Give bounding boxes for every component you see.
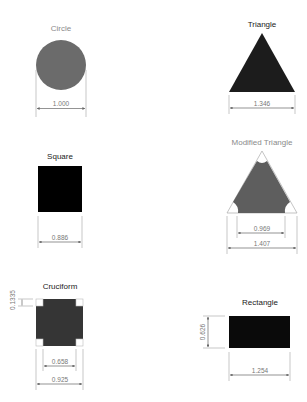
- cruciform-notch-bottom-left: [36, 339, 43, 346]
- rectangle-height-label: 0.626: [199, 323, 206, 340]
- rectangle-width-label: 1.254: [252, 367, 269, 374]
- cruciform-figure: Cruciform 0.1335 0.658 0.925: [9, 282, 83, 390]
- circle-figure: Circle 1.000: [36, 24, 86, 117]
- triangle-figure: Triangle 1.346: [229, 20, 295, 114]
- cruciform-title: Cruciform: [43, 282, 78, 291]
- modified-triangle-inner-label: 0.969: [254, 225, 271, 232]
- cruciform-inner-label: 0.658: [52, 358, 69, 365]
- square-title: Square: [47, 152, 73, 161]
- cruciform-notch-top-right: [76, 299, 83, 306]
- cruciform-outer-label: 0.925: [52, 376, 69, 383]
- modified-triangle-outer-label: 1.407: [254, 240, 271, 247]
- modified-triangle-title: Modified Triangle: [232, 138, 293, 147]
- circle-diameter-label: 1.000: [53, 100, 70, 107]
- shapes-diagram: Circle 1.000 Triangle 1.346 Square 0.886…: [0, 0, 307, 402]
- square-side-label: 0.886: [52, 234, 69, 241]
- cruciform-notch-label: 0.1335: [9, 290, 16, 310]
- rectangle-shape: [229, 316, 290, 348]
- square-shape: [38, 166, 82, 212]
- circle-title: Circle: [51, 24, 72, 33]
- circle-shape: [36, 40, 86, 90]
- cruciform-notch-bottom-right: [76, 339, 83, 346]
- cruciform-notch-top-left: [36, 299, 43, 306]
- triangle-base-label: 1.346: [254, 100, 271, 107]
- modified-triangle-figure: Modified Triangle 0.969 1.407: [227, 138, 297, 254]
- rectangle-title: Rectangle: [242, 298, 279, 307]
- rectangle-figure: Rectangle 0.626 1.254: [199, 298, 290, 381]
- square-figure: Square 0.886: [38, 152, 82, 248]
- triangle-shape: [229, 33, 295, 92]
- triangle-title: Triangle: [248, 20, 277, 29]
